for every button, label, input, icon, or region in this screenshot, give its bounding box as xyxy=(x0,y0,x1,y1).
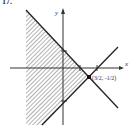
graph: x y (3/2, -1/2) xyxy=(0,0,138,129)
x-axis-label: x xyxy=(124,60,129,68)
vertex-label: (3/2, -1/2) xyxy=(92,75,116,82)
y-axis-arrow xyxy=(61,8,65,14)
x-axis-arrow xyxy=(119,66,124,70)
vertex-point xyxy=(87,75,91,79)
y-axis-label: y xyxy=(54,9,59,17)
